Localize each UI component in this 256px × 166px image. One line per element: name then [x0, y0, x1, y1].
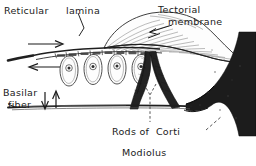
label-tectorial-line1: Tectorial	[157, 4, 201, 15]
label-basilar-line1: Basilar	[3, 87, 37, 98]
hair-cell	[108, 54, 126, 84]
label-basilar-line2: fiber	[8, 99, 31, 110]
label-rods-of-corti: Rods of Corti	[112, 126, 180, 137]
label-lamina: lamina	[66, 5, 100, 16]
hair-cell	[60, 56, 78, 86]
label-modiolus: Modiolus	[122, 147, 167, 158]
hair-cell	[84, 55, 102, 85]
label-reticular: Reticular	[4, 5, 49, 16]
label-tectorial-line2: membrane	[168, 16, 222, 27]
organ-of-corti-figure: Reticular lamina Tectorial membrane Basi…	[0, 0, 256, 166]
